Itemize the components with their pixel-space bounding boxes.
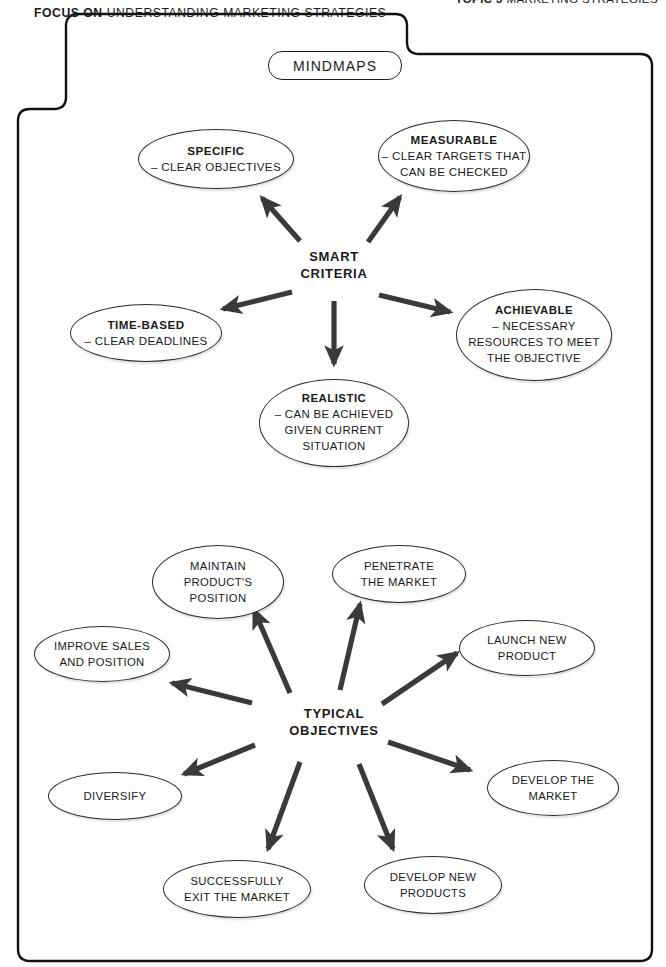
node-penetrate-market[interactable]: PENETRATE THE MARKET [332, 545, 466, 603]
node-achievable[interactable]: ACHIEVABLE – NECESSARY RESOURCES TO MEET… [456, 289, 612, 381]
node-measurable-title: MEASURABLE [411, 132, 498, 148]
node-develop-new-line-2: PRODUCTS [400, 885, 466, 901]
node-diversify-line-1: DIVERSIFY [84, 788, 147, 804]
node-achievable-title: ACHIEVABLE [495, 303, 573, 319]
mindmaps-heading-pill: MINDMAPS [268, 51, 402, 80]
node-achievable-line-3: THE OBJECTIVE [487, 351, 581, 367]
node-maintain-line-3: POSITION [190, 590, 247, 606]
node-improve-line-1: IMPROVE SALES [54, 638, 150, 654]
hub-typical-objectives: TYPICAL OBJECTIVES [266, 705, 402, 739]
node-exit-line-2: EXIT THE MARKET [184, 889, 290, 905]
mindmaps-label: MINDMAPS [293, 58, 377, 74]
node-measurable-line-1: – CLEAR TARGETS THAT [382, 148, 527, 164]
node-time-based-title: TIME-BASED [107, 317, 184, 333]
node-time-based-line-1: – CLEAR DEADLINES [84, 333, 207, 349]
page-frame [0, 0, 666, 967]
node-improve-line-2: AND POSITION [59, 654, 144, 670]
node-specific[interactable]: SPECIFIC – CLEAR OBJECTIVES [138, 129, 294, 189]
hub-objectives-line-2: OBJECTIVES [266, 722, 402, 739]
node-maintain-line-1: MAINTAIN [190, 558, 246, 574]
node-develop-market-line-2: MARKET [528, 788, 577, 804]
node-improve-sales[interactable]: IMPROVE SALES AND POSITION [34, 626, 170, 682]
focus-on-tab-label: FOCUS ON UNDERSTANDING MARKETING STRATEG… [34, 6, 386, 20]
node-achievable-line-2: RESOURCES TO MEET [468, 335, 599, 351]
node-realistic-line-1: – CAN BE ACHIEVED [275, 407, 394, 423]
node-maintain-line-2: PRODUCT'S [184, 574, 253, 590]
node-exit-line-1: SUCCESSFULLY [190, 873, 283, 889]
node-achievable-line-1: – NECESSARY [492, 319, 575, 335]
node-launch-line-1: LAUNCH NEW [487, 632, 566, 648]
node-realistic-line-2: GIVEN CURRENT [285, 423, 384, 439]
node-measurable-line-2: CAN BE CHECKED [400, 164, 508, 180]
node-develop-new-products[interactable]: DEVELOP NEW PRODUCTS [364, 856, 502, 914]
hub-smart-criteria: SMART CRITERIA [277, 248, 391, 282]
node-realistic-title: REALISTIC [302, 391, 367, 407]
node-realistic[interactable]: REALISTIC – CAN BE ACHIEVED GIVEN CURREN… [259, 379, 409, 467]
node-diversify[interactable]: DIVERSIFY [48, 772, 182, 820]
node-develop-new-line-1: DEVELOP NEW [390, 869, 477, 885]
node-exit-market[interactable]: SUCCESSFULLY EXIT THE MARKET [163, 860, 311, 918]
node-specific-title: SPECIFIC [187, 143, 244, 159]
node-specific-line-1: – CLEAR OBJECTIVES [151, 159, 281, 175]
node-penetrate-line-1: PENETRATE [364, 558, 434, 574]
node-develop-market[interactable]: DEVELOP THE MARKET [487, 760, 619, 816]
node-penetrate-line-2: THE MARKET [361, 574, 437, 590]
tab-title: UNDERSTANDING MARKETING STRATEGIES [107, 6, 387, 20]
node-measurable[interactable]: MEASURABLE – CLEAR TARGETS THAT CAN BE C… [378, 120, 530, 192]
hub-objectives-line-1: TYPICAL [266, 705, 402, 722]
node-maintain-position[interactable]: MAINTAIN PRODUCT'S POSITION [152, 545, 284, 619]
hub-smart-line-1: SMART [277, 248, 391, 265]
node-develop-market-line-1: DEVELOP THE [512, 772, 595, 788]
tab-prefix: FOCUS ON [34, 6, 103, 20]
page-root: TOPIC 3 MARKETING STRATEGIES FOCUS ON UN… [0, 0, 666, 967]
node-time-based[interactable]: TIME-BASED – CLEAR DEADLINES [70, 304, 222, 362]
hub-smart-line-2: CRITERIA [277, 265, 391, 282]
node-launch-line-2: PRODUCT [498, 648, 556, 664]
node-launch-new-product[interactable]: LAUNCH NEW PRODUCT [459, 620, 595, 676]
node-realistic-line-3: SITUATION [302, 439, 365, 455]
